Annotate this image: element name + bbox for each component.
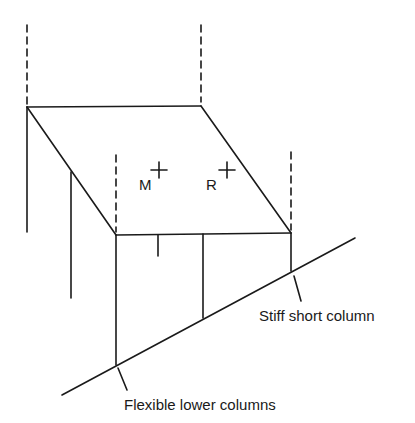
stiff-column-annotation: Stiff short column xyxy=(259,308,375,323)
structure-drawing xyxy=(0,0,415,423)
slab-back-edge xyxy=(27,106,201,107)
leader-stiff-column xyxy=(294,276,301,301)
rigidity-center-label: R xyxy=(206,177,217,192)
rigidity-center-cross-icon xyxy=(219,162,235,178)
flexible-columns-annotation: Flexible lower columns xyxy=(124,397,276,412)
leader-flexible-columns xyxy=(118,368,127,390)
diagram-canvas: M R Stiff short column Flexible lower co… xyxy=(0,0,415,423)
mass-center-cross-icon xyxy=(151,162,167,178)
slab-right-edge xyxy=(201,106,291,233)
mass-center-label: M xyxy=(139,177,152,192)
